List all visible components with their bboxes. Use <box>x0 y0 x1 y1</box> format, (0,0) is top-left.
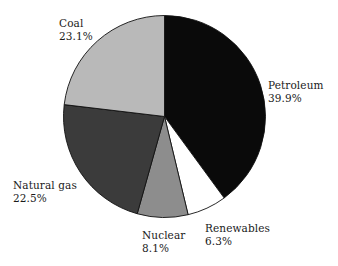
slice-label-natural-gas-value: 22.5% <box>13 192 77 205</box>
pie-chart-canvas <box>0 0 338 266</box>
slice-label-nuclear-value: 8.1% <box>142 242 185 255</box>
slice-label-renewables-value: 6.3% <box>205 235 270 248</box>
pie-slice-group <box>63 15 265 217</box>
slice-label-coal: Coal 23.1% <box>59 17 93 42</box>
slice-label-renewables-name: Renewables <box>205 222 270 235</box>
slice-label-nuclear: Nuclear 8.1% <box>142 229 185 254</box>
slice-label-petroleum-name: Petroleum <box>268 79 324 92</box>
slice-label-petroleum: Petroleum 39.9% <box>268 79 324 104</box>
pie-chart-figure: Coal 23.1% Petroleum 39.9% Natural gas 2… <box>0 0 338 266</box>
slice-label-petroleum-value: 39.9% <box>268 92 324 105</box>
slice-label-renewables: Renewables 6.3% <box>205 222 270 247</box>
slice-label-coal-name: Coal <box>59 17 93 30</box>
slice-label-coal-value: 23.1% <box>59 30 93 43</box>
slice-label-natural-gas-name: Natural gas <box>13 179 77 192</box>
slice-label-natural-gas: Natural gas 22.5% <box>13 179 77 204</box>
slice-label-nuclear-name: Nuclear <box>142 229 185 242</box>
